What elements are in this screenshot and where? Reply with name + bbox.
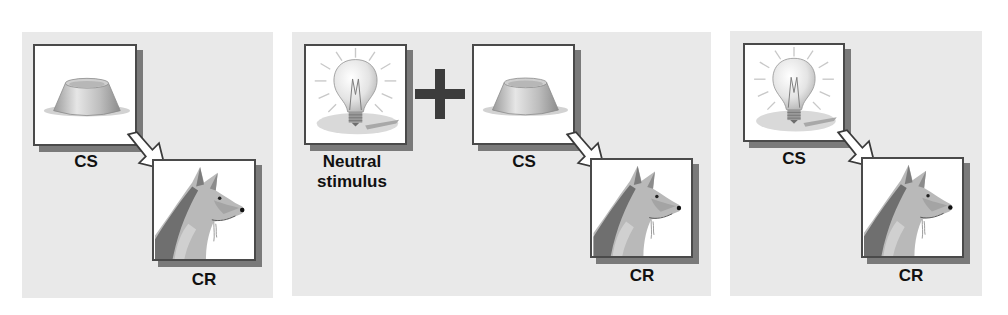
neutral-stimulus-box-bulb bbox=[304, 44, 407, 145]
cs-label: CS bbox=[764, 149, 824, 169]
light-bulb-icon bbox=[745, 45, 843, 140]
light-bulb-icon bbox=[306, 46, 405, 143]
cr-label: CR bbox=[612, 266, 672, 286]
food-bowl-icon bbox=[474, 46, 573, 143]
salivating-dog-icon bbox=[154, 161, 254, 259]
cs-box-bowl bbox=[33, 44, 137, 146]
cr-box-dog bbox=[152, 159, 256, 261]
cs-box-bulb bbox=[743, 43, 845, 142]
cr-label: CR bbox=[174, 270, 234, 290]
cs-box-bowl bbox=[472, 44, 575, 145]
cr-box-dog bbox=[861, 157, 964, 258]
cs-label: CS bbox=[56, 152, 116, 172]
cs-label: CS bbox=[494, 152, 554, 172]
neutral-label-line-1: Neutral bbox=[300, 152, 404, 172]
salivating-dog-icon bbox=[592, 160, 691, 256]
salivating-dog-icon bbox=[863, 159, 962, 256]
food-bowl-icon bbox=[35, 46, 135, 144]
neutral-label-line-2: stimulus bbox=[300, 172, 404, 192]
plus-icon bbox=[415, 69, 465, 119]
cr-label: CR bbox=[881, 266, 941, 286]
cr-box-dog bbox=[590, 158, 693, 258]
neutral-stimulus-label: Neutral stimulus bbox=[300, 152, 404, 192]
